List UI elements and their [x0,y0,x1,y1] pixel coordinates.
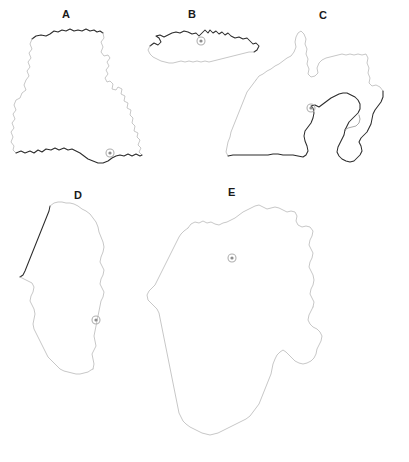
map-c-capital-marker [307,104,315,112]
map-a-border-east [101,33,142,155]
map-shape-c [226,31,383,162]
map-b-border-south [148,46,254,63]
map-c-coastline-south [228,93,360,157]
map-shape-a [11,29,142,163]
map-shape-b [148,30,259,63]
map-d-border-southwest [20,277,93,374]
map-a-capital-marker [106,149,114,157]
map-e-border-north [188,205,314,307]
panel-label-b: B [188,9,196,20]
panel-label-d: D [74,190,82,201]
map-d-border-northwest [20,206,50,277]
map-a-border-west [11,39,32,153]
prefecture-outlines-svg [0,0,409,462]
map-e-capital-marker [228,254,236,262]
map-c-peninsula-neck [345,115,360,130]
map-shape-d [20,202,104,374]
map-c-border-north [256,31,383,91]
map-e-border-east [147,228,322,435]
panel-label-c: C [319,10,327,21]
panel-label-e: E [228,187,236,198]
map-shape-e [147,205,322,435]
map-b-capital-marker [197,37,205,45]
map-d-capital-marker [92,316,100,324]
map-c-peninsula-east [337,91,383,162]
map-d-border-north [50,202,104,369]
map-a-coastline-south [16,148,142,163]
panel-label-a: A [62,9,70,20]
map-a-coastline-north [32,29,103,39]
map-c-border-west [226,80,256,156]
map-figure: A B C D E [0,0,409,462]
